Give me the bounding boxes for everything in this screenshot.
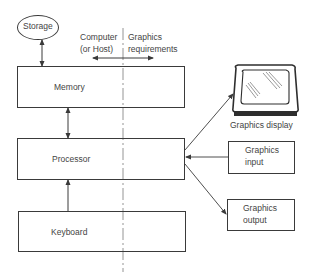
- divider-left-line1: Computer: [80, 31, 117, 43]
- processor-label: Processor: [52, 154, 90, 164]
- edge-processor-display: [185, 94, 233, 150]
- graphics-display-label: Graphics display: [230, 120, 293, 130]
- storage-label: Storage: [23, 21, 53, 31]
- divider-left-label: Computer (or Host): [80, 31, 117, 55]
- graphics-output-label: Graphics output: [243, 202, 277, 226]
- divider-right-line2: requirements: [128, 43, 178, 55]
- keyboard-label: Keyboard: [51, 227, 87, 237]
- graphics-input-line2: input: [245, 156, 279, 168]
- edge-processor-output: [185, 164, 226, 214]
- graphics-output-line1: Graphics: [243, 202, 277, 214]
- monitor-icon: [233, 65, 298, 116]
- keyboard-node: [18, 211, 186, 252]
- divider-right-label: Graphics requirements: [128, 31, 178, 55]
- processor-node: [17, 138, 185, 180]
- graphics-input-line1: Graphics: [245, 144, 279, 156]
- graphics-input-label: Graphics input: [245, 144, 279, 168]
- divider-right-line1: Graphics: [128, 31, 178, 43]
- divider-left-line2: (or Host): [80, 43, 117, 55]
- memory-label: Memory: [54, 82, 85, 92]
- graphics-output-line2: output: [243, 214, 277, 226]
- diagram-canvas: Storage Computer (or Host) Graphics requ…: [0, 0, 313, 278]
- memory-node: [17, 66, 185, 108]
